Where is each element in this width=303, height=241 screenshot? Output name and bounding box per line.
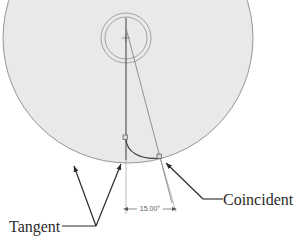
tangent-marker-upper	[123, 135, 128, 140]
drawing-canvas: 15.00° Tangent Coincident	[0, 0, 303, 241]
dimension-value-text[interactable]: 15.00°	[140, 205, 161, 212]
dimension-extension-right	[161, 160, 176, 212]
coincident-marker	[157, 154, 162, 159]
coincident-label[interactable]: Coincident	[223, 191, 294, 208]
cad-sketch-svg: 15.00° Tangent Coincident	[0, 0, 303, 241]
tangent-annotation-group[interactable]: Tangent	[9, 164, 121, 236]
tangent-arrow-right	[96, 164, 121, 226]
coincident-annotation-group[interactable]: Coincident	[166, 163, 294, 208]
coincident-arrow	[166, 163, 203, 199]
tangent-label[interactable]: Tangent	[9, 218, 61, 236]
tangent-arrow-left	[74, 166, 96, 226]
large-body-circle	[3, 0, 253, 163]
